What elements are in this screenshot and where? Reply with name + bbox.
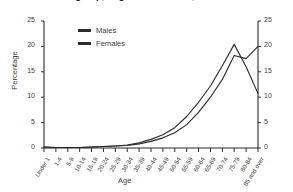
y-tick-label: 0 — [21, 143, 35, 150]
y-tick-label: 20 — [21, 41, 35, 48]
legend-label: Females — [96, 39, 125, 48]
y-tick-label: 15 — [21, 67, 35, 74]
legend-line-icon — [78, 42, 91, 45]
y-tick-label: 10 — [21, 92, 35, 99]
series-line-females — [44, 46, 258, 147]
y-tick-label: 0 — [264, 143, 278, 150]
series-line-males — [44, 44, 258, 147]
legend-item-males: Males — [78, 24, 125, 37]
legend-line-icon — [78, 29, 91, 32]
y-tick-label: 5 — [264, 118, 278, 125]
y-tick-label: 15 — [264, 67, 278, 74]
legend-label: Males — [96, 26, 116, 35]
y-tick-label: 25 — [264, 16, 278, 23]
y-tick-label: 5 — [21, 118, 35, 125]
chart-legend: Males Females — [78, 24, 125, 50]
y-tick-label: 25 — [21, 16, 35, 23]
chart-container: group, England and Wales, 1997 Percentag… — [0, 0, 293, 192]
y-tick-label: 10 — [264, 92, 278, 99]
legend-item-females: Females — [78, 37, 125, 50]
y-tick-label: 20 — [264, 41, 278, 48]
